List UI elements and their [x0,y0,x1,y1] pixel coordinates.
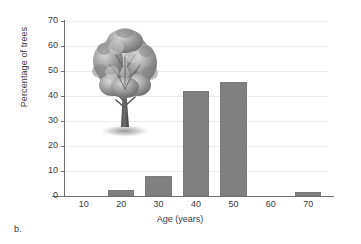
x-tick-label: 30 [144,199,174,209]
x-tick-label: 10 [69,199,99,209]
y-tick-label: 30 [36,115,58,125]
bar [108,190,134,196]
x-axis-title: Age (years) [45,214,315,224]
y-tick-label: 40 [36,90,58,100]
x-axis-line [52,196,334,197]
figure-caption-label: b. [14,224,22,234]
y-tick-label: 10 [36,165,58,175]
x-tick-label: 40 [181,199,211,209]
y-tick-mark [61,196,65,197]
x-tick-label: 60 [256,199,286,209]
y-tick-label: 60 [36,40,58,50]
x-tick-label: 70 [293,199,323,209]
bar [145,176,171,196]
x-tick-label: 20 [106,199,136,209]
bar [295,192,321,196]
bar [183,91,209,196]
plot-area [65,21,327,196]
y-tick-label: 0 [36,190,58,200]
y-tick-label: 50 [36,65,58,75]
bar [220,82,246,196]
y-axis-title: Percentage of trees [19,0,29,137]
y-tick-label: 20 [36,140,58,150]
y-tick-label: 70 [36,15,58,25]
bar-chart-figure: Percentage of trees Age (years) 01020304… [0,0,361,244]
x-tick-label: 50 [218,199,248,209]
